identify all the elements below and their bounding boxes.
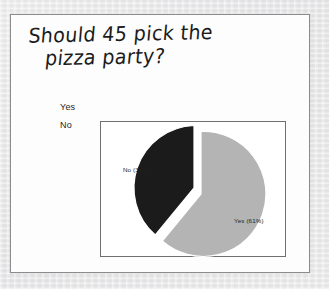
poll-option-yes: Yes	[60, 102, 75, 112]
paper-sheet: Should 45 pick the pizza party? Yes No N…	[10, 14, 310, 273]
pie-chart-frame: No (38%) Yes (61%)	[100, 121, 286, 257]
handwritten-line-2: pizza party?	[26, 41, 289, 71]
pie-chart: No (38%) Yes (61%)	[101, 122, 287, 258]
pie-label-yes: Yes (61%)	[234, 217, 264, 224]
handwritten-question: Should 45 pick the pizza party?	[25, 20, 286, 71]
poll-option-no: No	[60, 120, 72, 130]
pie-label-no: No (38%)	[123, 166, 150, 173]
